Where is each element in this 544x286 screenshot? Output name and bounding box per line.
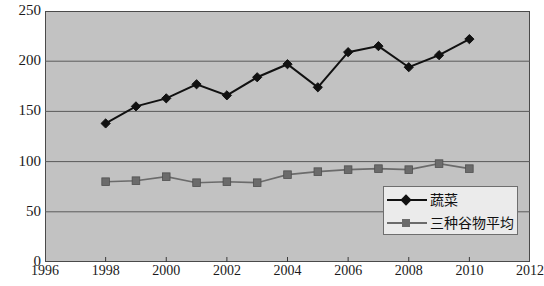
legend-item-grain-average: 三种谷物平均 [384, 211, 519, 235]
data-point-marker [435, 160, 443, 168]
data-point-marker [253, 179, 261, 187]
data-point-marker [314, 168, 322, 176]
x-tick-label: 2010 [455, 264, 483, 278]
data-point-marker [253, 73, 262, 82]
data-point-marker [132, 177, 140, 185]
x-tick-label: 2004 [274, 264, 302, 278]
y-axis: 050100150200250 [0, 0, 41, 286]
data-point-marker [405, 166, 413, 174]
diamond-marker-icon [400, 194, 411, 205]
data-point-marker [192, 80, 201, 89]
data-point-marker [466, 165, 474, 173]
x-tick-label: 2000 [152, 264, 180, 278]
legend-diamond-icon [384, 191, 430, 209]
legend-square-icon [384, 214, 430, 232]
x-tick-label: 2008 [395, 264, 423, 278]
data-point-marker [102, 178, 110, 186]
legend-item-label: 三种谷物平均 [430, 216, 514, 230]
series-line [106, 39, 470, 123]
x-tick-label: 1996 [31, 264, 59, 278]
data-point-marker [223, 178, 231, 186]
data-point-marker [193, 179, 201, 187]
data-point-marker [222, 91, 231, 100]
legend-item-label: 蔬菜 [430, 193, 458, 207]
data-point-marker [162, 173, 170, 181]
x-axis: 199619982000200220042006200820102012 [0, 264, 539, 286]
data-point-marker [162, 94, 171, 103]
data-point-marker [344, 166, 352, 174]
y-tick-label: 50 [1, 204, 41, 219]
x-tick-label: 2006 [334, 264, 362, 278]
y-tick-label: 150 [1, 103, 41, 118]
data-point-marker [101, 119, 110, 128]
y-tick-label: 200 [1, 53, 41, 68]
legend-item-vegetables: 蔬菜 [384, 188, 519, 212]
data-point-marker [284, 171, 292, 179]
legend: 蔬菜 三种谷物平均 [383, 186, 518, 235]
square-marker-icon [402, 219, 410, 227]
data-point-marker [434, 51, 443, 60]
x-tick-label: 2012 [516, 264, 544, 278]
data-point-marker [465, 35, 474, 44]
data-point-marker [375, 165, 383, 173]
x-tick-label: 1998 [92, 264, 120, 278]
x-tick-label: 2002 [213, 264, 241, 278]
data-point-marker [131, 102, 140, 111]
y-tick-label: 250 [1, 3, 41, 18]
y-tick-label: 100 [1, 154, 41, 169]
